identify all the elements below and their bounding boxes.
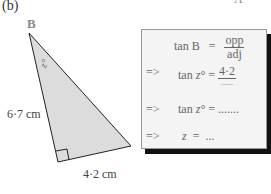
- equals-sign: =: [208, 102, 215, 116]
- right-triangle: [0, 0, 140, 194]
- work-line-1: tan B = opp adj: [174, 34, 271, 60]
- implies-arrow: =>: [146, 65, 160, 80]
- numerator: opp: [224, 34, 244, 48]
- side-length-left: 6·7 cm: [7, 107, 41, 122]
- answer-blank: .......: [218, 102, 239, 116]
- fraction-4-2: 4·2 ......: [218, 65, 236, 87]
- tan-b-text: tan B: [174, 39, 200, 53]
- side-length-bottom: 4·2 cm: [83, 167, 117, 182]
- equals-sign: =: [208, 68, 215, 82]
- z-variable: z°: [196, 68, 205, 82]
- denominator-blank: ......: [218, 79, 236, 87]
- implies-arrow: =>: [146, 102, 160, 117]
- implies-arrow: =>: [146, 129, 160, 144]
- numerator: 4·2: [218, 65, 236, 79]
- z-variable: z: [182, 129, 187, 143]
- workbox: tan B = opp adj => tan z° = 4·2 ...... =…: [141, 29, 267, 149]
- equals-sign: =: [209, 39, 216, 53]
- tan-text: tan: [178, 102, 193, 116]
- tan-text: tan: [178, 68, 193, 82]
- fraction-opp-adj: opp adj: [224, 34, 244, 60]
- answer-blank: ...: [205, 129, 214, 143]
- denominator: adj: [224, 48, 244, 61]
- equals-sign: =: [193, 129, 200, 143]
- corner-label: A: [234, 0, 243, 7]
- vertex-label-b: B: [27, 16, 36, 32]
- z-variable: z°: [196, 102, 205, 116]
